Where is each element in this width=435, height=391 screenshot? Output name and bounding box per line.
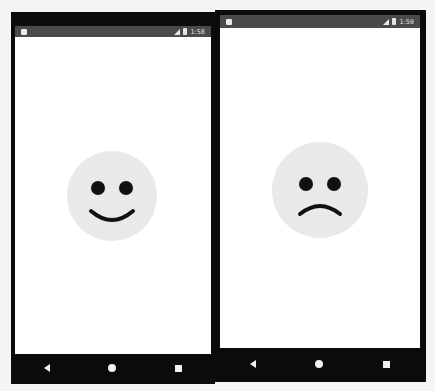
phone-left: 1:58 <box>11 12 215 384</box>
home-icon[interactable] <box>108 364 116 372</box>
signal-icon <box>382 19 389 25</box>
smiley-icon <box>67 151 157 241</box>
battery-icon <box>392 18 396 25</box>
home-icon[interactable] <box>315 360 323 368</box>
frowny-icon <box>272 142 368 238</box>
back-icon[interactable] <box>44 364 50 372</box>
status-time: 1:59 <box>399 18 414 26</box>
back-icon[interactable] <box>250 360 256 368</box>
signal-icon <box>173 29 180 35</box>
recents-icon[interactable] <box>175 365 182 372</box>
nav-bar <box>220 350 420 378</box>
happy-face[interactable] <box>67 151 157 241</box>
app-screen <box>220 28 420 348</box>
status-icons: 1:58 <box>173 28 205 36</box>
battery-icon <box>183 28 187 35</box>
nav-bar <box>15 355 211 381</box>
phone-right: 1:59 <box>215 10 426 382</box>
sd-card-icon <box>21 29 27 35</box>
status-bar: 1:59 <box>220 15 420 28</box>
app-screen <box>15 37 211 354</box>
recents-icon[interactable] <box>383 361 390 368</box>
sad-face[interactable] <box>272 142 368 238</box>
sd-card-icon <box>226 19 232 25</box>
status-icons: 1:59 <box>382 18 414 26</box>
status-bar: 1:58 <box>15 26 211 37</box>
status-time: 1:58 <box>190 28 205 36</box>
